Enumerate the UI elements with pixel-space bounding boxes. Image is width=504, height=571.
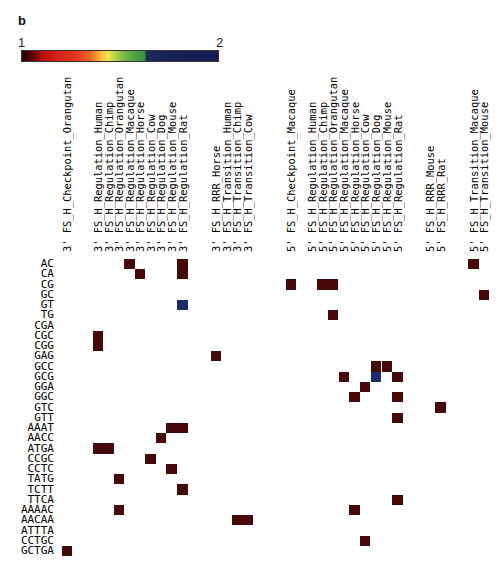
heatmap-cell [135, 269, 146, 279]
column-label: 5' FS_H_RRR_Mouse [424, 60, 436, 252]
heatmap-cell [392, 413, 403, 423]
heatmap-cell [166, 464, 177, 474]
heatmap-cell [371, 361, 382, 371]
heatmap-cell [62, 546, 73, 556]
heatmap-cell [211, 351, 222, 361]
row-label: GCTGA [0, 545, 54, 557]
heatmap-cell [124, 259, 135, 269]
heatmap-cell [349, 505, 360, 515]
heatmap-cell [114, 474, 125, 484]
heatmap-cell [145, 454, 156, 464]
column-label: 5' FS_H_RRR_Rat [435, 60, 447, 252]
heatmap-cell [392, 372, 403, 382]
column-label: 3' FS_H_Transition_Cow [242, 60, 254, 252]
heatmap-cell [177, 259, 188, 269]
heatmap-cell [177, 423, 188, 433]
column-label: 5' FS_H_Regulation_Human [306, 60, 318, 252]
heatmap-cell [93, 341, 104, 351]
column-label: 3' FS_H_Checkpoint_Orangutan [61, 60, 73, 252]
column-label: 3' FS_H_Regulation_Rat [177, 60, 189, 252]
column-label: 5' FS_H_Regulation_Rat [392, 60, 404, 252]
heatmap-cell [242, 515, 253, 525]
heatmap-cell [328, 310, 339, 320]
heatmap-cell [286, 279, 297, 289]
heatmap-cell [382, 361, 393, 371]
heatmap-cell [371, 372, 382, 382]
heatmap-cell [317, 279, 328, 289]
heatmap-cell [93, 331, 104, 341]
heatmap-cell [93, 443, 104, 453]
heatmap-cell [177, 484, 188, 494]
heatmap-cell [339, 372, 350, 382]
heatmap-cell [114, 505, 125, 515]
panel-label: b [18, 13, 26, 28]
heatmap-cell [360, 382, 371, 392]
heatmap-cell [177, 269, 188, 279]
heatmap-cell [360, 536, 371, 546]
heatmap-cell [103, 443, 114, 453]
heatmap-cell [156, 433, 167, 443]
column-label: 5' FS_H_Checkpoint_Macaque [285, 60, 297, 252]
colorbar-min-label: 1 [18, 35, 25, 50]
heatmap-cell [392, 495, 403, 505]
heatmap-cell [177, 300, 188, 310]
heatmap-cell [349, 392, 360, 402]
heatmap-cell [166, 423, 177, 433]
heatmap-cell [392, 392, 403, 402]
colorbar-max-label: 2 [216, 35, 223, 50]
heatmap-cell [328, 279, 339, 289]
column-label: 5' FS_H_Transition_Mouse [478, 60, 490, 252]
heatmap-cell [435, 402, 446, 412]
column-label: 3' FS_H_Regulation_Mouse [166, 60, 178, 252]
heatmap-cell [468, 259, 479, 269]
heatmap-cell [479, 290, 490, 300]
heatmap-cell [232, 515, 243, 525]
heatmap-figure: b 1 2 3' FS_H_Checkpoint_Orangutan 3' FS… [0, 0, 504, 571]
